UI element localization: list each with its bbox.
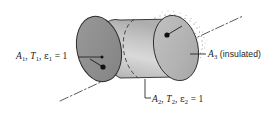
surface-3-label-text: A3 (insulated) <box>208 49 261 59</box>
surface-2-label-text: A2, T2, ε2 = 1 <box>152 94 203 104</box>
surface-1-label: A1, T1, ε1 = 1 <box>16 52 67 62</box>
surface-3-label: A3 (insulated) <box>208 50 261 60</box>
figure-container: A1, T1, ε1 = 1 A2, T2, ε2 = 1 A3 (insula… <box>0 0 276 116</box>
leader-line-A2 <box>145 79 151 98</box>
surface-2-label: A2, T2, ε2 = 1 <box>152 95 203 105</box>
surface-1-label-text: A1, T1, ε1 = 1 <box>16 51 67 61</box>
